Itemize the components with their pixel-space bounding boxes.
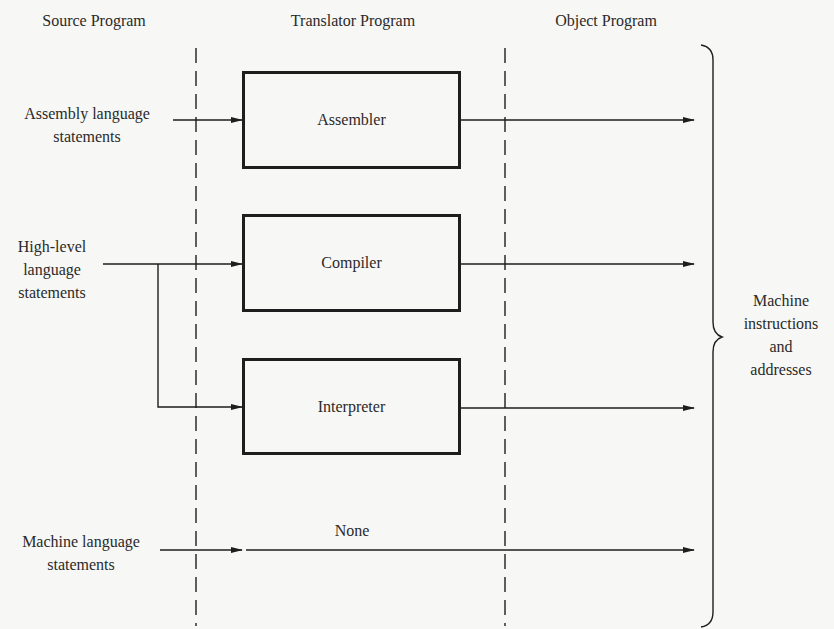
output-line-2: instructions [728,312,834,335]
compiler-box: Compiler [242,214,461,312]
assembler-box: Assembler [242,71,461,169]
source-machine-language: Machine language statements [4,530,158,576]
source-highlevel-line-2: language [4,258,100,281]
compiler-label: Compiler [321,254,381,272]
header-source-program: Source Program [24,9,164,32]
source-machine-line-2: statements [4,553,158,576]
source-high-level-language: High-level language statements [4,235,100,304]
arrow-highlevel-to-interpreter [158,264,242,407]
header-object-program: Object Program [536,9,676,32]
source-highlevel-line-3: statements [4,281,100,304]
output-line-3: and [728,335,834,358]
none-label: None [312,519,392,542]
source-highlevel-line-1: High-level [4,235,100,258]
output-brace [701,45,722,627]
assembler-label: Assembler [317,111,385,129]
interpreter-label: Interpreter [318,398,386,416]
source-machine-line-1: Machine language [4,530,158,553]
source-assembly-line-2: statements [6,125,168,148]
source-assembly-language: Assembly language statements [6,102,168,148]
output-line-1: Machine [728,289,834,312]
output-machine-instructions: Machine instructions and addresses [728,289,834,381]
interpreter-box: Interpreter [242,358,461,455]
output-line-4: addresses [728,358,834,381]
source-assembly-line-1: Assembly language [6,102,168,125]
header-translator-program: Translator Program [263,9,443,32]
